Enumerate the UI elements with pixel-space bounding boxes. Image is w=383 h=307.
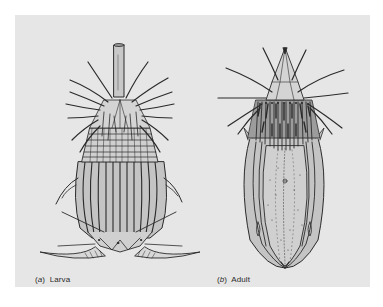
- caption-larva: (a) Larva: [35, 275, 70, 284]
- caption-letter-b: b: [220, 275, 225, 284]
- caption-label-b: Adult: [231, 275, 250, 284]
- figure-illustration: [0, 0, 383, 307]
- caption-label-a: Larva: [50, 275, 71, 284]
- caption-adult: (b) Adult: [217, 275, 250, 284]
- adult-drawing: [218, 48, 348, 268]
- larva-drawing: [40, 44, 200, 259]
- caption-letter-a: a: [38, 275, 43, 284]
